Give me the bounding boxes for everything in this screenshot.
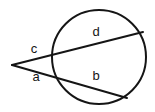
label-c: c — [31, 41, 38, 56]
label-d: d — [92, 24, 99, 39]
geometry-diagram: c a d b — [0, 0, 155, 112]
label-b: b — [92, 68, 99, 83]
label-a: a — [32, 69, 40, 84]
geometry-canvas: c a d b — [0, 0, 155, 112]
